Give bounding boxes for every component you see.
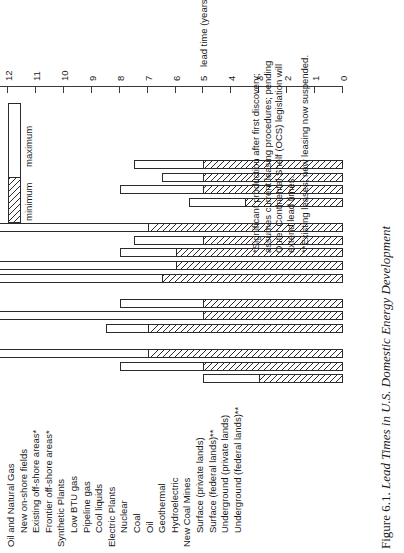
- category-label: Geothermal: [157, 483, 167, 533]
- chart-legend: minimum maximum: [8, 83, 42, 223]
- legend-maximum-label: maximum: [23, 126, 34, 167]
- category-label: Underground (private lands): [220, 415, 230, 533]
- x-axis-tick: [230, 86, 231, 93]
- group-label: Synthetic Plants: [56, 479, 66, 547]
- category-label: Surface (federal lands)**: [208, 430, 218, 534]
- x-axis-tick: [342, 86, 343, 93]
- bar-minimum-segment: [176, 261, 344, 270]
- category-label: Hydroelectric: [170, 478, 180, 533]
- x-axis-tick: [91, 86, 92, 93]
- category-label: Low BTU gas: [69, 476, 79, 533]
- figure-number: Figure 6.1.: [378, 492, 393, 549]
- bar-frontier-off-shore-areas: [0, 349, 343, 358]
- bar-nuclear: [0, 274, 343, 283]
- category-label: Cool liquids: [94, 484, 104, 533]
- category-label: Underground (federal lands)**: [233, 407, 243, 533]
- x-axis-tick-label: 12: [3, 67, 14, 81]
- x-axis-tick-label: 9: [87, 67, 98, 81]
- bar-minimum-segment: [162, 274, 343, 283]
- category-label: Coal: [132, 513, 142, 533]
- x-axis-tick-label: 4: [226, 67, 237, 81]
- bar-cool-liquids: [120, 299, 343, 308]
- bar-existing-off-shore-areas: [120, 362, 343, 371]
- x-axis-tick-label: 11: [31, 67, 42, 81]
- bar-minimum-segment: [203, 299, 343, 308]
- x-axis-tick-label: 7: [143, 67, 154, 81]
- category-label: New on-shore fields: [19, 449, 29, 533]
- footnote-1: *Significant production after first disc…: [250, 38, 296, 253]
- figure-title: Lead Times in U.S. Domestic Energy Devel…: [378, 226, 393, 489]
- group-label: New Coal Mines: [182, 478, 192, 547]
- figure-frame: Figure 6.1. Lead Times in U.S. Domestic …: [0, 0, 404, 553]
- category-label-column: Oil and Natural GasNew on-shore fieldsEx…: [0, 403, 360, 553]
- bar-low-btu-gas: [106, 324, 343, 333]
- bar-pipeline-gas: [0, 311, 343, 320]
- footnote-2: **Existing leases; new leasing now suspe…: [299, 38, 311, 253]
- x-axis-tick-label: 10: [59, 67, 70, 81]
- x-axis-tick-label: 8: [115, 67, 126, 81]
- bar-minimum-segment: [259, 374, 343, 383]
- bar-minimum-segment: [203, 362, 343, 371]
- x-axis-tick: [202, 86, 203, 93]
- x-axis-tick-label: 0: [338, 67, 349, 81]
- category-label: Nuclear: [119, 500, 129, 533]
- category-label: Frontier off-shore areas*: [44, 430, 54, 533]
- bar-minimum-segment: [203, 311, 343, 320]
- figure-6-1: Figure 6.1. Lead Times in U.S. Domestic …: [0, 0, 404, 553]
- bar-coal: [0, 261, 343, 270]
- rotated-page: Figure 6.1. Lead Times in U.S. Domestic …: [0, 0, 404, 553]
- x-axis-tick: [175, 86, 176, 93]
- category-label: Oil: [145, 521, 155, 533]
- bar-minimum-segment: [148, 324, 343, 333]
- x-axis-title: lead time (years): [198, 0, 209, 67]
- bar-new-on-shore-fields: [203, 374, 343, 383]
- group-label: Electric Plants: [107, 487, 117, 547]
- legend-minimum-swatch: [8, 177, 21, 223]
- x-axis-tick: [63, 86, 64, 93]
- x-axis-tick-label: 6: [171, 67, 182, 81]
- x-axis-tick: [119, 86, 120, 93]
- group-label: Oil and Natural Gas: [6, 464, 16, 547]
- x-axis-tick-label: 5: [198, 67, 209, 81]
- bar-minimum-segment: [148, 223, 343, 232]
- x-axis-tick: [314, 86, 315, 93]
- category-label: Surface (private lands): [195, 437, 205, 533]
- figure-footnotes: *Significant production after first disc…: [250, 38, 314, 253]
- figure-caption: Figure 6.1. Lead Times in U.S. Domestic …: [378, 219, 394, 549]
- legend-minimum-label: minimum: [23, 182, 34, 221]
- category-label: Pipeline gas: [82, 481, 92, 533]
- bar-minimum-segment: [148, 349, 343, 358]
- x-axis-tick: [147, 86, 148, 93]
- category-label: Existing off-shore areas*: [31, 430, 41, 533]
